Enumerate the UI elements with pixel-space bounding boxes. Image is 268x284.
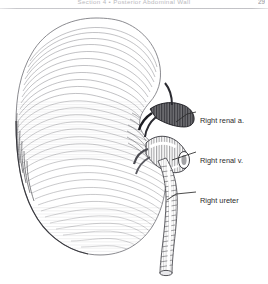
label-right-renal-vein: Right renal v.: [200, 156, 243, 165]
label-right-renal-artery: Right renal a.: [200, 116, 244, 125]
page-number: 29: [258, 0, 265, 5]
running-header-title: Section 4 • Posterior Abdominal Wall: [0, 0, 268, 5]
kidney-illustration: Right renal a. Right renal v. Right uret…: [0, 9, 268, 284]
label-right-ureter: Right ureter: [200, 196, 239, 205]
document-page: Section 4 • Posterior Abdominal Wall 29: [0, 0, 268, 284]
kidney-body: [16, 18, 166, 257]
